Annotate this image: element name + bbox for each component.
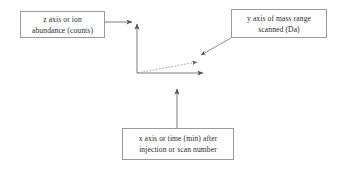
y-axis-dashed-line (137, 62, 197, 73)
callout-x-axis-line2: injection or scan number (139, 144, 218, 155)
callout-z-axis: z axis or ion abundance (counts) (20, 11, 105, 38)
callout-x-axis: x axis or time (min) after injection or … (122, 128, 234, 160)
callout-y-axis: y axis of mass range scanned (Da) (231, 9, 327, 38)
callout-x-axis-line1: x axis or time (min) after (139, 133, 218, 144)
diagram-canvas: z axis or ion abundance (counts) y axis … (0, 0, 342, 173)
callout-y-axis-line2: scanned (Da) (247, 24, 311, 35)
callout-z-axis-line1: z axis or ion (32, 14, 93, 25)
callout-y-axis-line1: y axis of mass range (247, 13, 311, 24)
connector-y-to-axis (201, 38, 231, 55)
callout-z-axis-line2: abundance (counts) (32, 25, 93, 36)
